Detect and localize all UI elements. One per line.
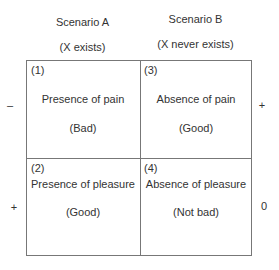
cell-number: (2) — [31, 162, 44, 174]
cell-value: (Good) — [27, 206, 139, 218]
cell-label: Presence of pleasure — [27, 178, 139, 190]
scenario-a-subtitle: (X exists) — [26, 41, 139, 54]
scenario-b-title: Scenario B — [139, 13, 252, 26]
cell-value: (Not bad) — [140, 206, 252, 218]
cell-number: (4) — [144, 162, 157, 174]
sign-row1-right: + — [256, 99, 268, 111]
cell-number: (1) — [31, 64, 44, 76]
sign-row2-right: 0 — [258, 200, 270, 212]
cell-label: Presence of pain — [27, 93, 139, 105]
cell-presence-of-pain: (1) Presence of pain (Bad) — [27, 61, 139, 157]
scenario-a-title: Scenario A — [26, 16, 139, 29]
cell-value: (Bad) — [27, 122, 139, 134]
cell-label: Absence of pleasure — [140, 178, 252, 190]
cell-presence-of-pleasure: (2) Presence of pleasure (Good) — [27, 159, 139, 255]
comparison-grid: (1) Presence of pain (Bad) (3) Absence o… — [26, 60, 252, 256]
cell-absence-of-pain: (3) Absence of pain (Good) — [140, 61, 252, 157]
cell-number: (3) — [144, 64, 157, 76]
scenario-b-subtitle: (X never exists) — [139, 38, 252, 51]
cell-absence-of-pleasure: (4) Absence of pleasure (Not bad) — [140, 159, 252, 255]
sign-row1-left: – — [4, 99, 16, 111]
cell-label: Absence of pain — [140, 93, 252, 105]
sign-row2-left: + — [8, 201, 20, 213]
cell-value: (Good) — [140, 122, 252, 134]
